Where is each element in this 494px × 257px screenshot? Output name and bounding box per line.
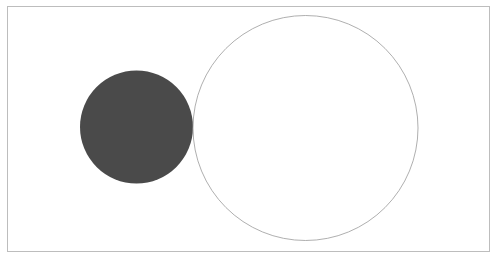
outline-circle	[193, 16, 418, 241]
diagram-frame	[8, 7, 490, 252]
filled-circle	[80, 71, 193, 184]
diagram-canvas	[0, 0, 494, 257]
